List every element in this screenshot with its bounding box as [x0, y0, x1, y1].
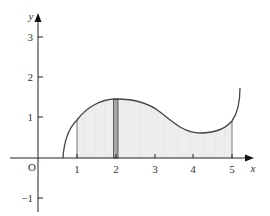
y-tick-label-2: 2 — [28, 71, 34, 83]
y-axis-label: y — [28, 10, 34, 22]
x-tick-label-1: 1 — [74, 163, 80, 175]
x-tick-label-5: 5 — [229, 163, 235, 175]
x-axis-arrow-icon — [245, 155, 254, 162]
area-under-curve-diagram: 1 2 3 4 5 3 2 1 −1 O x y — [0, 0, 270, 216]
x-axis-label: x — [250, 162, 256, 174]
x-tick-label-4: 4 — [190, 163, 196, 175]
y-ticks — [38, 37, 43, 198]
origin-label: O — [28, 161, 36, 173]
x-tick-label-3: 3 — [152, 163, 158, 175]
y-tick-label-neg1: −1 — [21, 192, 33, 204]
thin-strip-rectangle — [114, 99, 119, 158]
y-tick-label-3: 3 — [28, 31, 34, 43]
y-tick-label-1: 1 — [28, 111, 34, 123]
y-axis-arrow-icon — [35, 13, 42, 22]
x-tick-label-2: 2 — [113, 163, 119, 175]
